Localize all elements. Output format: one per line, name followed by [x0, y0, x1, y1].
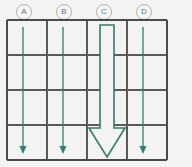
grid-diagram — [0, 0, 192, 167]
thin-arrow-b-head — [60, 146, 67, 154]
figure-canvas: A B C D — [0, 0, 192, 167]
thin-arrow-a-head — [20, 146, 27, 154]
thin-arrow-d-head — [140, 146, 147, 154]
